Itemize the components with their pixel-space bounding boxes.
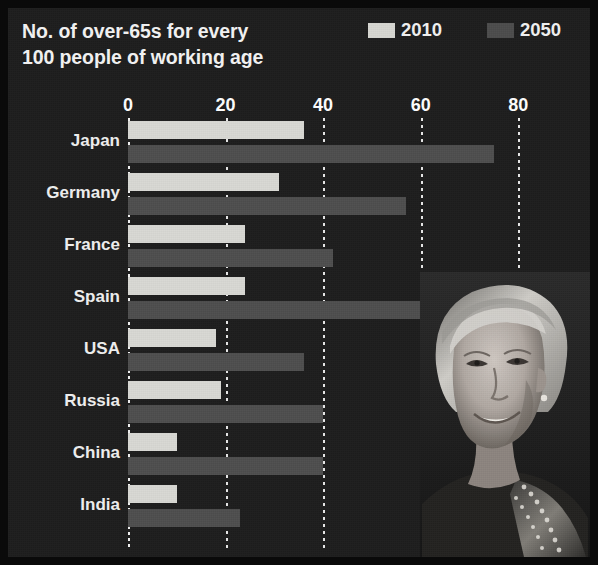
legend-swatch-2050-icon [487,23,514,38]
category-label-usa: USA [8,340,120,357]
category-label-china: China [8,444,120,461]
category-label-spain: Spain [8,288,120,305]
bar-russia-2010[interactable] [128,381,221,399]
category-label-japan: Japan [8,132,120,149]
bar-group-germany [128,170,528,222]
bar-india-2010[interactable] [128,485,177,503]
legend-item-2050[interactable]: 2050 [487,21,561,39]
bar-usa-2010[interactable] [128,329,216,347]
category-label-india: India [8,496,120,513]
bar-group-france [128,222,528,274]
bar-germany-2010[interactable] [128,173,279,191]
category-label-france: France [8,236,120,253]
x-tick-label-40: 40 [313,96,333,114]
bar-china-2050[interactable] [128,457,323,475]
x-tick-label-20: 20 [216,96,236,114]
legend-item-2010[interactable]: 2010 [368,21,442,39]
x-axis-tick-labels: 020406080 [128,96,548,118]
legend-label-2050: 2050 [520,21,561,39]
bar-france-2010[interactable] [128,225,245,243]
infographic-panel: No. of over-65s for every100 people of w… [8,8,590,557]
elderly-woman-portrait-photo [420,272,590,557]
bar-china-2010[interactable] [128,433,177,451]
category-label-germany: Germany [8,184,120,201]
legend-label-2010: 2010 [401,21,442,39]
screenshot-root: No. of over-65s for every100 people of w… [0,0,598,565]
chart-title-line-2: 100 people of working age [22,46,263,68]
x-tick-label-80: 80 [508,96,528,114]
portrait-earring [541,395,547,401]
bar-japan-2010[interactable] [128,121,304,139]
x-tick-label-0: 0 [123,96,133,114]
bar-germany-2050[interactable] [128,197,406,215]
bar-russia-2050[interactable] [128,405,323,423]
bar-spain-2010[interactable] [128,277,245,295]
chart-title-line-1: No. of over-65s for every [22,20,248,42]
bar-group-japan [128,118,528,170]
bar-usa-2050[interactable] [128,353,304,371]
bar-india-2050[interactable] [128,509,240,527]
legend-swatch-2010-icon [368,23,395,38]
category-label-russia: Russia [8,392,120,409]
chart-legend: 2010 2050 [360,21,585,47]
portrait-illustration [420,272,590,557]
bar-japan-2050[interactable] [128,145,494,163]
x-tick-label-60: 60 [411,96,431,114]
bar-spain-2050[interactable] [128,301,421,319]
bar-france-2050[interactable] [128,249,333,267]
chart-title: No. of over-65s for every100 people of w… [22,18,352,70]
y-axis-category-labels: JapanGermanyFranceSpainUSARussiaChinaInd… [8,118,128,548]
